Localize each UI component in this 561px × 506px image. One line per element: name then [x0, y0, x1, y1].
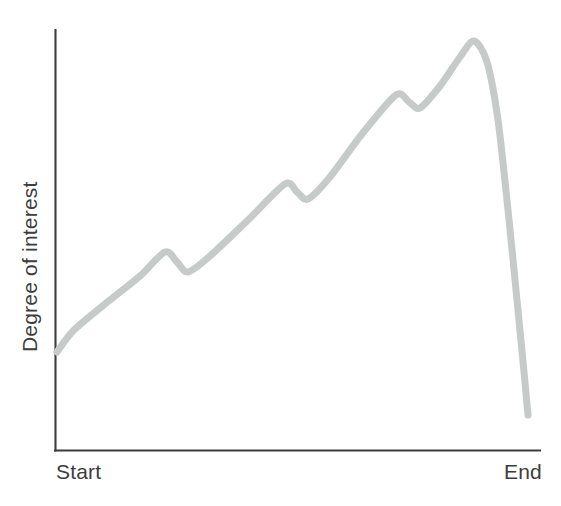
chart-plot-area — [0, 0, 561, 506]
x-axis-start-label: Start — [56, 460, 101, 484]
x-axis-end-label: End — [504, 460, 542, 484]
chart-figure: Degree of interest Start End — [0, 0, 561, 506]
y-axis-label: Degree of interest — [18, 181, 42, 352]
interest-curve — [57, 41, 528, 415]
